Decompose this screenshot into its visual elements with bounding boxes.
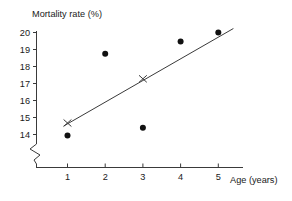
data-point	[140, 125, 146, 131]
y-tick-label: 20	[20, 28, 30, 38]
x-axis-title: Age (years)	[230, 175, 278, 185]
chart-plot-area: Mortality rate (%) Age (years) 20 19 18 …	[0, 0, 292, 201]
x-tick-label: 3	[140, 172, 145, 182]
y-tick-label: 18	[20, 62, 30, 72]
x-tick-label: 4	[178, 172, 183, 182]
x-axis-tick-labels: 1 2 3 4 5	[65, 172, 221, 182]
y-tick-label: 19	[20, 45, 30, 55]
mortality-rate-scatter-chart: Mortality rate (%) Age (years) 20 19 18 …	[0, 0, 292, 201]
y-axis-break-icon	[30, 140, 40, 168]
y-tick-label: 16	[20, 96, 30, 106]
data-point	[215, 30, 221, 36]
y-tick-label: 15	[20, 113, 30, 123]
y-axis-tick-labels: 20 19 18 17 16 15 14	[20, 28, 30, 140]
data-point	[102, 51, 108, 57]
y-axis-ticks	[33, 33, 37, 135]
y-tick-label: 17	[20, 79, 30, 89]
y-axis-title: Mortality rate (%)	[32, 9, 102, 19]
trend-line	[64, 29, 234, 127]
x-tick-label: 5	[216, 172, 221, 182]
cross-marker	[64, 120, 72, 127]
x-tick-label: 2	[103, 172, 108, 182]
y-tick-label: 14	[20, 130, 30, 140]
data-point	[178, 38, 184, 44]
x-axis-ticks	[68, 164, 219, 168]
data-points	[65, 30, 222, 139]
x-tick-label: 1	[65, 172, 70, 182]
data-point	[65, 132, 71, 138]
